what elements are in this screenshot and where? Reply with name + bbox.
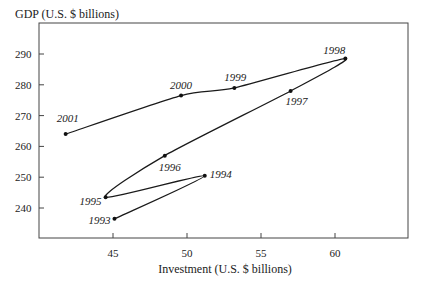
- x-axis-title: Investment (U.S. $ billions): [0, 262, 422, 277]
- year-label: 2000: [170, 79, 193, 91]
- data-point-1998: [343, 57, 347, 61]
- year-label: 1995: [80, 195, 103, 207]
- chart-plot: 240250260270280290 45505560 199319941995…: [0, 0, 422, 289]
- year-label: 1994: [210, 168, 233, 180]
- x-tick-label: 50: [182, 247, 194, 259]
- data-point-1993: [112, 217, 116, 221]
- y-tick-label: 270: [15, 110, 32, 122]
- year-label: 1997: [286, 95, 309, 107]
- data-point-1999: [232, 86, 236, 90]
- y-tick-label: 240: [15, 202, 32, 214]
- data-points: [64, 57, 348, 221]
- y-tick-label: 290: [15, 48, 32, 60]
- y-tick-label: 250: [15, 171, 32, 183]
- data-point-1995: [104, 195, 108, 199]
- x-axis-ticks: 45505560: [108, 233, 342, 259]
- data-point-2000: [179, 94, 183, 98]
- data-point-1997: [289, 89, 293, 93]
- year-label: 2001: [57, 112, 79, 124]
- data-line: [66, 59, 347, 219]
- x-tick-label: 60: [330, 247, 342, 259]
- data-point-1994: [203, 174, 207, 178]
- year-label: 1993: [88, 214, 111, 226]
- y-tick-label: 280: [15, 79, 32, 91]
- year-label: 1996: [159, 161, 182, 173]
- y-tick-label: 260: [15, 140, 32, 152]
- year-annotations: 199319941995199619971998199920002001: [57, 44, 346, 226]
- x-tick-label: 45: [108, 247, 120, 259]
- x-tick-label: 55: [256, 247, 268, 259]
- y-axis-ticks: 240250260270280290: [15, 48, 44, 214]
- year-label: 1998: [323, 44, 346, 56]
- year-label: 1999: [224, 71, 247, 83]
- data-point-1996: [163, 154, 167, 158]
- data-point-2001: [64, 132, 68, 136]
